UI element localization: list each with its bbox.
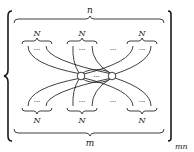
svg-text:N: N bbox=[138, 116, 147, 125]
diagram-canvas: n m mn N ··· N ··· ··· N ··· N ··· N ···… bbox=[0, 0, 194, 152]
svg-text:···: ··· bbox=[139, 98, 146, 106]
outer-label-mn: mn bbox=[175, 142, 188, 151]
bottom-between-ellipsis: ··· bbox=[110, 98, 117, 106]
svg-text:···: ··· bbox=[139, 46, 146, 54]
center-ellipsis: ··· bbox=[93, 73, 100, 81]
top-brace-label: n bbox=[87, 5, 93, 15]
svg-text:···: ··· bbox=[34, 46, 41, 54]
svg-text:···: ··· bbox=[79, 98, 86, 106]
bottom-brace-label: m bbox=[86, 138, 95, 148]
svg-text:···: ··· bbox=[79, 46, 86, 54]
top-between-ellipsis: ··· bbox=[110, 46, 117, 54]
center-node-left bbox=[77, 72, 85, 80]
right-bracket bbox=[168, 11, 171, 141]
left-curly-brace bbox=[4, 11, 12, 141]
svg-text:N: N bbox=[33, 116, 42, 125]
svg-text:N: N bbox=[78, 116, 87, 125]
center-node-right bbox=[108, 72, 116, 80]
svg-text:···: ··· bbox=[34, 98, 41, 106]
bottom-underbrace bbox=[14, 129, 164, 136]
top-overbrace bbox=[14, 16, 164, 23]
bottom-group-3: N ··· bbox=[127, 98, 157, 125]
